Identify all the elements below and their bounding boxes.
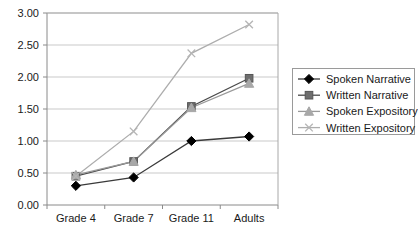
x-category-label: Grade 4	[56, 212, 96, 224]
y-tick-label: 1.50	[18, 103, 39, 115]
legend-item-label: Spoken Expository	[326, 105, 418, 117]
y-tick-label: 1.00	[18, 135, 39, 147]
chart-legend: Spoken NarrativeWritten NarrativeSpoken …	[293, 69, 418, 135]
y-tick-label: 2.50	[18, 39, 39, 51]
x-category-label: Grade 7	[114, 212, 154, 224]
y-tick-label: 0.50	[18, 167, 39, 179]
line-chart: 0.000.501.001.502.002.503.00 Grade 4Grad…	[0, 0, 418, 230]
x-category-label: Adults	[234, 212, 265, 224]
y-tick-label: 3.00	[18, 7, 39, 19]
data-point-legend-1	[305, 91, 313, 99]
x-category-label: Grade 11	[169, 212, 214, 224]
y-tick-label: 0.00	[18, 199, 39, 211]
legend-item-label: Written Expository	[326, 122, 416, 134]
legend-item-label: Spoken Narrative	[326, 73, 411, 85]
y-tick-label: 2.00	[18, 71, 39, 83]
chart-svg: 0.000.501.001.502.002.503.00 Grade 4Grad…	[0, 0, 418, 230]
legend-item-label: Written Narrative	[326, 89, 408, 101]
